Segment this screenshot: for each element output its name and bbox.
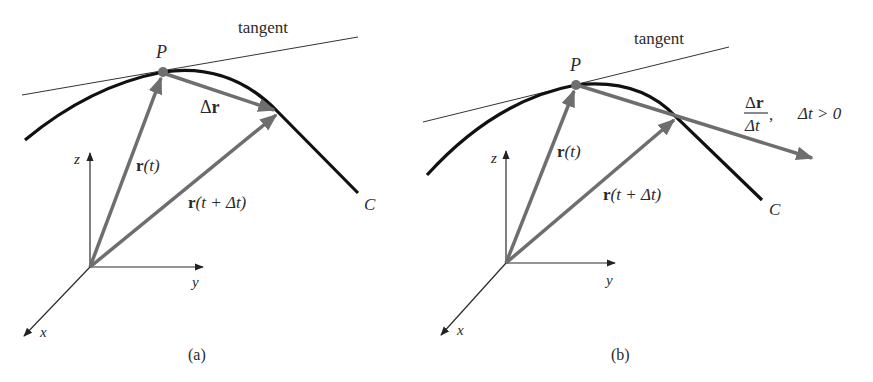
- vector-delta-r-over-delta-t: [580, 86, 812, 158]
- curve-c: [25, 70, 358, 193]
- curve-label: C: [364, 195, 376, 214]
- curve-label: C: [769, 200, 781, 219]
- tangent-line: [22, 37, 358, 95]
- curve-c: [427, 84, 762, 200]
- y-axis-label: y: [190, 274, 199, 290]
- r-t-label: r(t): [136, 156, 160, 175]
- panel-a: tangent C z y x r(t) r(t + Δt) Δr P (a): [22, 18, 376, 364]
- svg-text:Δr: Δr: [745, 93, 764, 112]
- tangent-label: tangent: [238, 18, 288, 37]
- delta-r-label: Δr: [200, 97, 220, 117]
- point-p: [571, 80, 581, 90]
- point-p-label: P: [155, 42, 167, 62]
- tangent-label: tangent: [634, 29, 684, 48]
- panel-b-caption: (b): [611, 346, 630, 364]
- x-axis-label: x: [39, 324, 47, 340]
- quotient-label: Δr Δt , Δt > 0: [744, 93, 842, 135]
- x-axis: [24, 267, 90, 336]
- point-p: [158, 67, 168, 77]
- z-axis-label: z: [73, 151, 80, 167]
- condition-label: Δt > 0: [797, 104, 842, 123]
- x-axis-label: x: [456, 322, 464, 338]
- panel-b: tangent C z y x r(t) r(t + Δt) Δr Δt , Δ…: [423, 29, 842, 364]
- vector-r-t: [506, 91, 574, 263]
- figure-canvas: tangent C z y x r(t) r(t + Δt) Δr P (a) …: [0, 0, 873, 382]
- r-t-label: r(t): [557, 142, 581, 161]
- point-p-label: P: [569, 55, 581, 75]
- svg-text:Δt: Δt: [744, 116, 761, 135]
- x-axis: [441, 263, 506, 335]
- panel-a-caption: (a): [188, 346, 206, 364]
- y-axis-label: y: [604, 272, 613, 288]
- svg-text:,: ,: [769, 105, 773, 124]
- vector-delta-r: [166, 74, 274, 110]
- r-t-dt-label: r(t + Δt): [188, 193, 247, 212]
- z-axis-label: z: [490, 150, 497, 166]
- r-t-dt-label: r(t + Δt): [603, 185, 662, 204]
